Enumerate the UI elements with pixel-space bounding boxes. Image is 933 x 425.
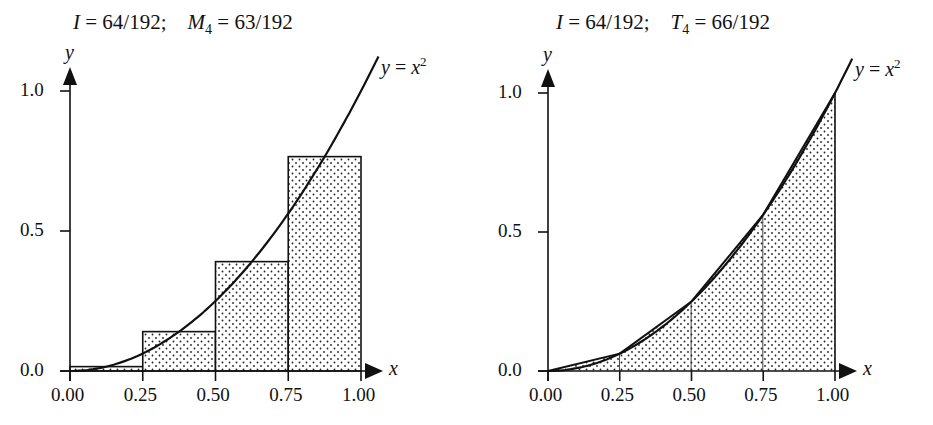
x-axis-name: x: [863, 357, 872, 380]
x-tick-label: 1.00: [816, 384, 849, 406]
y-axis-arrow-icon: [541, 69, 555, 87]
y-axis-name: y: [543, 43, 552, 66]
x-axis-arrow-icon: [365, 363, 383, 379]
y-axis-arrow-icon: [63, 67, 77, 85]
x-tick-label: 0.75: [744, 384, 777, 406]
x-tick-label: 1.00: [342, 384, 375, 406]
plots-canvas: [0, 0, 933, 425]
x-tick-label: 0.50: [197, 384, 230, 406]
trapezoid-region: [763, 93, 835, 371]
y-tick-label: 0.5: [498, 220, 522, 242]
y-tick-label: 0.5: [20, 219, 44, 241]
curve-label: y = x2: [381, 54, 427, 79]
y-tick-label: 1.0: [20, 79, 44, 101]
midpoint-rectangle: [143, 332, 216, 371]
x-tick-label: 0.50: [673, 384, 706, 406]
y-tick-label: 1.0: [498, 81, 522, 103]
x-tick-label: 0.75: [269, 384, 302, 406]
curve-label: y = x2: [855, 56, 901, 81]
x-tick-label: 0.00: [51, 384, 84, 406]
y-tick-label: 0.0: [20, 359, 44, 381]
x-tick-label: 0.25: [601, 384, 634, 406]
x-axis-arrow-icon: [839, 363, 857, 379]
trapezoid-region: [692, 215, 764, 371]
midpoint-rectangle: [216, 262, 289, 371]
x-axis-name: x: [389, 357, 398, 380]
x-tick-label: 0.00: [529, 384, 562, 406]
y-tick-label: 0.0: [498, 359, 522, 381]
trapezoid-plot: [538, 59, 857, 381]
midpoint-plot: [60, 56, 383, 381]
x-tick-label: 0.25: [124, 384, 157, 406]
midpoint-rectangle: [288, 157, 361, 371]
y-axis-name: y: [65, 41, 74, 64]
